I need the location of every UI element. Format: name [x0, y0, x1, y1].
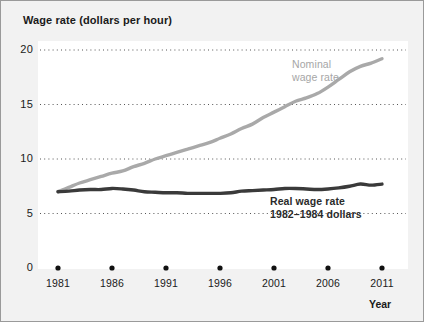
x-tick-dot [271, 265, 276, 270]
x-tick-label: 1986 [90, 277, 134, 289]
y-tick-label: 15 [9, 98, 33, 110]
x-tick-dot [109, 265, 114, 270]
x-tick-dot [217, 265, 222, 270]
x-tick-label: 2001 [252, 277, 296, 289]
x-tick-dot-group [55, 265, 384, 270]
chart-canvas [1, 1, 424, 322]
series-label-real-line2: 1982–1984 dollars [270, 208, 362, 221]
series-label-nominal-line1: Nominal [292, 58, 339, 71]
x-tick-label: 1991 [144, 277, 188, 289]
series-label-real-line1: Real wage rate [270, 195, 362, 208]
x-tick-label: 2006 [306, 277, 350, 289]
x-tick-dot [55, 265, 60, 270]
series-label-nominal: Nominal wage rate [292, 58, 339, 84]
x-tick-label: 2011 [360, 277, 404, 289]
y-tick-label: 10 [9, 152, 33, 164]
series-label-nominal-line2: wage rate [292, 71, 339, 84]
x-tick-dot [163, 265, 168, 270]
x-tick-dot [325, 265, 330, 270]
y-tick-label: 5 [9, 207, 33, 219]
series-line-real [58, 184, 382, 193]
x-tick-dot [379, 265, 384, 270]
y-tick-label: 20 [9, 43, 33, 55]
chart-figure: Wage rate (dollars per hour) 20151050 19… [0, 0, 424, 322]
x-axis-title: Year [369, 298, 391, 310]
x-tick-label: 1996 [198, 277, 242, 289]
series-label-real: Real wage rate 1982–1984 dollars [270, 195, 362, 221]
x-tick-label: 1981 [36, 277, 80, 289]
y-tick-label: 0 [9, 261, 33, 273]
